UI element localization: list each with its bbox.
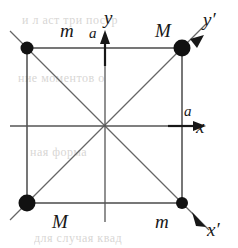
mass-dot-bottom-left — [19, 195, 36, 212]
mass-dot-bottom-right — [176, 197, 188, 209]
mass-label-top-left: m — [60, 21, 74, 40]
mass-label-bottom-right: m — [155, 212, 169, 231]
side-length-label-x: a — [184, 104, 192, 119]
axis-label-x: x — [196, 117, 204, 136]
axis-x-prime-arrowhead — [192, 212, 206, 227]
mass-label-bottom-left: M — [52, 212, 68, 231]
physics-figure: и л аст три постр ние моментов о ная фор… — [0, 0, 238, 248]
mass-dot-top-right — [174, 40, 191, 57]
mass-dot-top-left — [21, 42, 34, 55]
mass-label-top-right: M — [155, 21, 171, 40]
axis-y-arrowhead — [100, 30, 110, 44]
axis-label-y-prime: y′ — [203, 10, 216, 29]
axis-label-y: y — [104, 8, 112, 27]
side-length-label-y: a — [89, 26, 97, 41]
axis-label-x-prime: x′ — [207, 220, 220, 239]
axis-y-prime-arrowhead — [190, 35, 204, 48]
